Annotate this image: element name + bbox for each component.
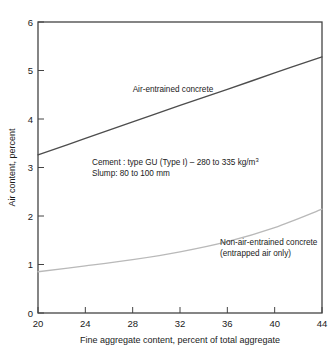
label-entrapped-air-only: (entrapped air only) <box>220 249 291 258</box>
y-tick-label-1: 1 <box>28 259 33 270</box>
y-tick-label-5: 5 <box>28 65 33 76</box>
label-non-air-entrained-concrete: Non-air-entrained concrete <box>220 238 318 247</box>
air-content-line-chart: 0 1 2 3 4 5 6 20 24 28 32 36 40 44 <box>0 0 335 361</box>
note-cement-type: Cement : type GU (Type I) – 280 to 335 k… <box>92 157 259 167</box>
y-tick-label-3: 3 <box>28 162 33 173</box>
x-tick-label-1: 24 <box>80 318 91 329</box>
x-tick-label-0: 20 <box>33 318 44 329</box>
note-cement-type-text: Cement : type GU (Type I) – 280 to 335 k… <box>92 158 256 167</box>
x-tick-label-6: 44 <box>317 318 328 329</box>
x-tick-label-4: 36 <box>222 318 233 329</box>
chart-background <box>0 0 335 361</box>
note-slump: Slump: 80 to 100 mm <box>92 169 170 178</box>
y-tick-label-6: 6 <box>28 17 33 28</box>
x-tick-label-5: 40 <box>269 318 280 329</box>
y-tick-label-0: 0 <box>28 308 33 319</box>
chart-figure: 0 1 2 3 4 5 6 20 24 28 32 36 40 44 <box>0 0 335 361</box>
label-air-entrained-concrete: Air-entrained concrete <box>133 85 214 94</box>
x-axis-title: Fine aggregate content, percent of total… <box>80 335 280 345</box>
y-tick-label-4: 4 <box>28 114 33 125</box>
y-tick-label-2: 2 <box>28 211 33 222</box>
note-cement-type-superscript: 3 <box>255 157 258 163</box>
x-tick-label-3: 32 <box>175 318 186 329</box>
y-axis-title: Air content, percent <box>7 128 17 207</box>
x-tick-label-2: 28 <box>127 318 138 329</box>
